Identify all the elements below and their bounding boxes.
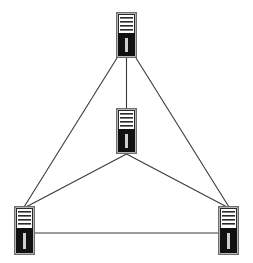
server-tower-icon <box>117 13 137 58</box>
server-tower-icon <box>15 207 35 255</box>
network-diagram <box>0 0 253 263</box>
server-bottom-right[interactable] <box>219 207 239 255</box>
server-tower-icon <box>219 207 239 255</box>
server-tower-icon <box>117 109 137 154</box>
server-center[interactable] <box>117 109 137 154</box>
server-bottom-left[interactable] <box>15 207 35 255</box>
server-top[interactable] <box>117 13 137 58</box>
